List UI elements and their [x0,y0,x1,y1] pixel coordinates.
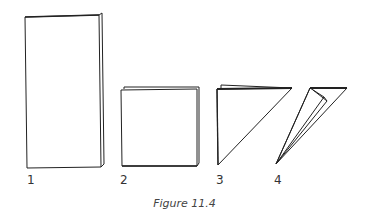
step-2-shape [121,87,199,166]
folding-figure: 1 2 3 4 Figure 11.4 [0,0,369,218]
step-4-shape [276,88,347,164]
step-3-label: 3 [216,174,224,186]
figure-caption: Figure 11.4 [0,197,369,210]
step-1-shape [25,13,104,168]
step-2-label: 2 [120,174,128,186]
step-1-label: 1 [27,174,35,186]
folding-diagram [0,0,369,218]
step-4-label: 4 [274,174,282,186]
